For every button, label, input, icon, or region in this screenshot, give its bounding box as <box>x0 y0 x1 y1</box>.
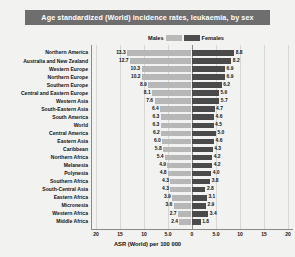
value-label-male: 6.2 <box>153 130 160 137</box>
value-label-male: 3.6 <box>165 202 172 209</box>
x-tick-label: 15 <box>261 231 267 237</box>
bar-pair: 3.62.9 <box>91 202 292 210</box>
chart-row: Northern Africa5.44.2 <box>0 154 295 162</box>
chart-row: South-Central Asia4.32.8 <box>0 186 295 194</box>
value-label-female: 3.8 <box>212 178 219 185</box>
value-label-female: 3.1 <box>208 194 215 201</box>
bar-female <box>192 211 208 217</box>
chart-legend: Males Females <box>148 33 224 42</box>
bar-female <box>192 90 219 96</box>
value-label-female: 2.8 <box>207 186 214 193</box>
chart-row: Polynesia4.84.0 <box>0 170 295 178</box>
value-label-female: 1.8 <box>202 219 209 226</box>
bar-pair: 4.84.0 <box>91 170 292 178</box>
bar-female <box>192 74 225 80</box>
value-label-male: 10.2 <box>131 74 141 81</box>
bar-pair: 6.25.0 <box>91 129 292 137</box>
bar-rows: Northern America13.38.8Australia and New… <box>0 49 295 226</box>
category-label: Polynesia <box>0 171 91 176</box>
legend-swatch-females <box>184 35 200 41</box>
bar-male <box>127 50 191 56</box>
category-label: Central and Eastern Europe <box>0 91 91 96</box>
bar-male <box>152 90 191 96</box>
bar-female <box>192 195 207 201</box>
value-label-male: 5.4 <box>157 154 164 161</box>
category-label: World <box>0 123 91 128</box>
bar-male <box>161 114 191 120</box>
value-label-female: 8.2 <box>233 58 240 65</box>
category-label: Northern America <box>0 50 91 55</box>
category-label: Western Asia <box>0 99 91 104</box>
bar-pair: 2.73.4 <box>91 210 292 218</box>
category-label: Micronesia <box>0 203 91 208</box>
chart-row: Australia and New Zealand12.78.2 <box>0 57 295 65</box>
chart-row: Central America6.25.0 <box>0 129 295 137</box>
bar-male <box>165 155 191 161</box>
bar-pair: 4.32.8 <box>91 186 292 194</box>
x-axis-label: ASR (World) per 100 000 <box>0 241 295 247</box>
legend-label-males: Males <box>148 35 164 41</box>
value-label-male: 8.9 <box>140 82 147 89</box>
value-label-female: 6.9 <box>227 74 234 81</box>
category-label: Middle Africa <box>0 219 91 224</box>
value-label-male: 2.7 <box>170 211 177 218</box>
bar-male <box>172 195 191 201</box>
category-label: Western Africa <box>0 211 91 216</box>
bar-male <box>155 98 191 104</box>
bar-female <box>192 98 219 104</box>
value-label-male: 6.0 <box>154 138 161 145</box>
bar-male <box>161 131 191 137</box>
chart-row: Central and Eastern Europe8.15.6 <box>0 89 295 97</box>
value-label-male: 4.3 <box>162 178 169 185</box>
bar-male <box>167 163 191 169</box>
category-label: Melanesia <box>0 163 91 168</box>
bar-female <box>192 187 205 193</box>
category-label: South-Central Asia <box>0 187 91 192</box>
value-label-female: 5.6 <box>220 90 227 97</box>
x-tick-label: 20 <box>285 231 291 237</box>
value-label-female: 2.9 <box>207 202 214 209</box>
category-label: Southern Africa <box>0 179 91 184</box>
bar-female <box>192 203 206 209</box>
value-label-female: 5.0 <box>218 130 225 137</box>
value-label-male: 4.8 <box>160 170 167 177</box>
value-label-female: 4.7 <box>216 106 223 113</box>
x-tick-label: 0 <box>191 231 194 237</box>
legend-label-females: Females <box>202 35 224 41</box>
value-label-male: 5.8 <box>155 146 162 153</box>
bar-female <box>192 114 214 120</box>
value-label-male: 4.9 <box>159 162 166 169</box>
bar-female <box>192 82 222 88</box>
x-tick-label: 5.0 <box>165 231 172 237</box>
chart-row: Western Europe10.36.9 <box>0 65 295 73</box>
bar-female <box>192 131 216 137</box>
value-label-female: 4.3 <box>214 146 221 153</box>
bar-pair: 6.44.7 <box>91 105 292 113</box>
value-label-male: 12.7 <box>119 58 129 65</box>
bar-male <box>148 82 191 88</box>
bar-pair: 2.41.8 <box>91 218 292 226</box>
bar-pair: 7.65.7 <box>91 97 292 105</box>
value-label-male: 10.3 <box>131 66 141 73</box>
x-axis-line <box>91 229 293 230</box>
bar-pair: 13.38.8 <box>91 49 292 57</box>
value-label-male: 2.4 <box>171 219 178 226</box>
value-label-female: 4.2 <box>214 154 221 161</box>
chart-row: World6.34.5 <box>0 121 295 129</box>
chart-row: Southern Africa4.33.8 <box>0 178 295 186</box>
bar-male <box>163 147 191 153</box>
bar-female <box>192 171 211 177</box>
bar-pair: 4.33.8 <box>91 178 292 186</box>
chart-row: Eastern Asia6.04.6 <box>0 138 295 146</box>
category-label: Australia and New Zealand <box>0 59 91 64</box>
bar-female <box>192 163 212 169</box>
category-label: Southern Europe <box>0 83 91 88</box>
chart-row: Micronesia3.62.9 <box>0 202 295 210</box>
value-label-female: 5.7 <box>221 98 228 105</box>
bar-male <box>162 139 191 145</box>
page-title: Age standardized (World) incidence rates… <box>41 13 253 22</box>
bar-female <box>192 139 214 145</box>
bar-female <box>192 147 213 153</box>
bar-female <box>192 179 210 185</box>
chart-row: South-Eastern Asia6.44.7 <box>0 105 295 113</box>
